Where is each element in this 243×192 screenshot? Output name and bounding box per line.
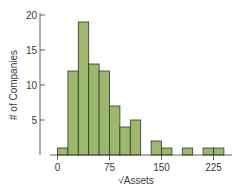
y-axis-label: # of Companies: [8, 50, 19, 120]
x-tick-label: 225: [205, 162, 222, 173]
histogram-bar: [120, 127, 130, 155]
histogram-bar: [78, 22, 88, 155]
y-tick-label: 5: [31, 115, 37, 126]
histogram-bar: [99, 71, 109, 155]
x-tick-label: 0: [55, 162, 61, 173]
histogram-chart: 5101520 075150225 # of Companies √Assets: [0, 0, 243, 192]
histogram-bar: [68, 71, 78, 155]
x-tick-label: 150: [153, 162, 170, 173]
x-axis-label: √Assets: [118, 175, 154, 186]
histogram-bar: [110, 106, 120, 155]
y-tick-label: 20: [26, 10, 38, 21]
histogram-bar: [58, 148, 68, 155]
histogram-bar: [89, 64, 99, 155]
histogram-bar: [130, 120, 140, 155]
histogram-bars: [58, 22, 224, 155]
histogram-bar: [182, 148, 192, 155]
histogram-bar: [151, 141, 161, 155]
histogram-bar: [214, 148, 224, 155]
y-tick-label: 10: [26, 80, 38, 91]
y-ticks: 5101520: [26, 10, 45, 126]
histogram-bar: [162, 148, 172, 155]
x-tick-label: 75: [104, 162, 116, 173]
histogram-bar: [203, 148, 213, 155]
y-tick-label: 15: [26, 45, 38, 56]
